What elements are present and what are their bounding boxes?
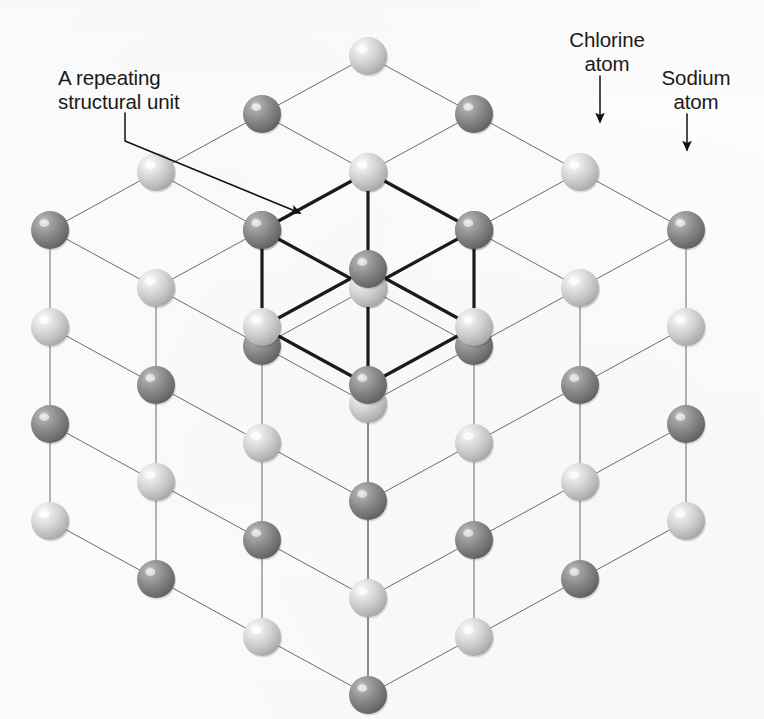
lattice-line-top	[368, 56, 686, 230]
sodium-atom	[455, 95, 494, 135]
chlorine-atom	[349, 153, 388, 193]
chlorine-atom	[455, 618, 494, 658]
sodium-atom	[137, 560, 176, 600]
unit-cell-atoms	[243, 153, 494, 406]
lattice-line-right	[368, 424, 686, 598]
sodium-atom	[349, 676, 388, 716]
sodium-atom	[349, 482, 388, 522]
sodium-atom	[667, 211, 706, 251]
label-repeating-structural-unit: A repeating structural unit	[58, 66, 180, 113]
lattice-line-left	[50, 521, 368, 695]
sodium-atom	[667, 405, 706, 445]
chlorine-atom	[31, 502, 70, 542]
sodium-atom	[31, 405, 70, 445]
sodium-atom	[455, 211, 494, 251]
chlorine-atom	[243, 618, 282, 658]
chlorine-atom	[561, 269, 600, 309]
sodium-atom	[137, 366, 176, 406]
chlorine-atom	[561, 463, 600, 503]
sodium-atom	[243, 95, 282, 135]
lattice-line-top	[50, 230, 368, 404]
chlorine-atom	[349, 579, 388, 619]
chlorine-atom	[349, 37, 388, 77]
figure-canvas: A repeating structural unit Chlorine ato…	[0, 0, 764, 719]
chlorine-atom	[561, 153, 600, 193]
chlorine-atom	[137, 463, 176, 503]
lattice-line-left	[50, 327, 368, 501]
chlorine-atom	[667, 308, 706, 348]
lattice-line-right	[368, 521, 686, 695]
label-sodium-atom: Sodium atom	[640, 66, 752, 113]
lattice-line-top	[368, 230, 686, 404]
sodium-atom	[561, 560, 600, 600]
sodium-atom	[243, 521, 282, 561]
sodium-atom	[243, 211, 282, 251]
chlorine-atom	[31, 308, 70, 348]
chlorine-atom	[667, 502, 706, 542]
lattice-line-left	[50, 424, 368, 598]
sodium-atom	[455, 521, 494, 561]
chlorine-atom	[455, 424, 494, 464]
chlorine-atom	[137, 269, 176, 309]
lattice-line-right	[368, 327, 686, 501]
sodium-atom	[561, 366, 600, 406]
chlorine-atom	[243, 424, 282, 464]
sodium-atom	[31, 211, 70, 251]
